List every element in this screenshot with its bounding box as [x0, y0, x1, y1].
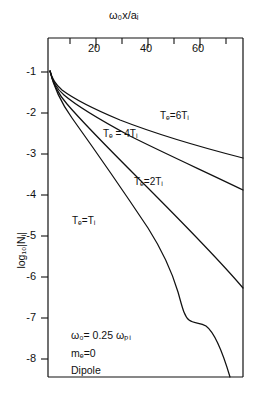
curve-label-te-4ti: Tₑ = 4Tᵢ: [103, 129, 137, 139]
curve-label-te-ti: Tₑ=Tᵢ: [72, 216, 95, 226]
curve-label-te-2ti: Tₑ=2Tᵢ: [134, 177, 163, 187]
x-tick-label-60: 60: [192, 43, 204, 54]
y-tick-label-minus8: -8: [14, 353, 36, 364]
curve-label-te-6ti: Tₑ=6Tᵢ: [160, 111, 189, 121]
x-axis-title: ω₀x/aᵢ: [109, 10, 139, 21]
curve-te-4ti: [50, 71, 243, 190]
axis-frame: [48, 38, 243, 377]
annotation-mode: Dipole: [71, 365, 101, 376]
y-axis-ticks: [41, 72, 48, 359]
curve-te-6ti: [50, 71, 243, 158]
figure-panel: ω₀x/aᵢ 20 40 60 -1 -2 -3 -4 -5 -6 -7 -8 …: [0, 0, 263, 394]
y-tick-label-minus4: -4: [14, 189, 36, 200]
y-tick-label-minus1: -1: [14, 66, 36, 77]
y-tick-label-minus2: -2: [14, 107, 36, 118]
annotation-omega: ω₀= 0.25 ωₚᵢ: [71, 330, 131, 341]
annotation-electron-mass: mₑ=0: [71, 348, 96, 359]
plot-canvas: [0, 0, 263, 394]
y-axis-title: log₁₀|Nᵢ|: [16, 215, 27, 285]
x-tick-label-40: 40: [140, 43, 152, 54]
y-tick-label-minus7: -7: [14, 312, 36, 323]
y-tick-label-minus3: -3: [14, 148, 36, 159]
x-tick-label-20: 20: [88, 43, 100, 54]
